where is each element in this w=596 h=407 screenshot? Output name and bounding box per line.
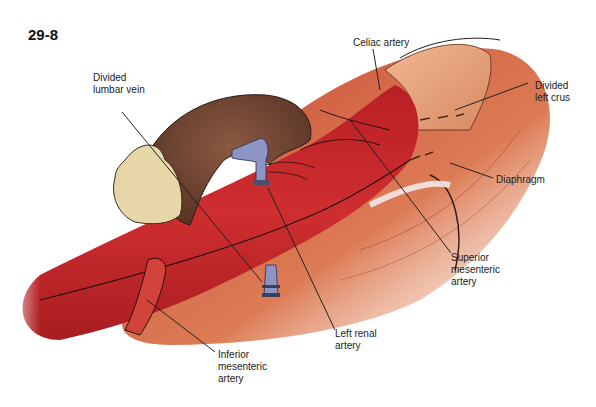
anatomy-illustration [0, 0, 596, 407]
label-diaphragm: Diaphragm [496, 174, 545, 186]
label-divided-lumbar-vein: Divided lumbar vein [93, 72, 145, 96]
label-superior-mesenteric-artery: Superior mesenteric artery [451, 252, 500, 288]
label-inferior-mesenteric-artery: Inferior mesenteric artery [218, 349, 267, 385]
label-left-renal-artery: Left renal artery [335, 328, 377, 352]
label-celiac-artery: Celiac artery [353, 37, 409, 49]
label-divided-left-crus: Divided left crus [535, 80, 570, 104]
